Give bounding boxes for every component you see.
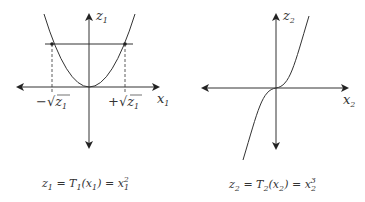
left-z-axis-label: z1 — [95, 8, 108, 25]
intersection-point-right — [123, 42, 127, 46]
right-z-axis-label: z2 — [282, 8, 295, 25]
pos-root-label: +√z1 — [108, 94, 139, 111]
intersection-point-left — [50, 42, 54, 46]
left-caption: z1 = T1(x1) = x21 — [42, 175, 129, 192]
neg-root-label: −√z1 — [36, 94, 67, 111]
right-caption: z2 = T2(x2) = x32 — [229, 176, 316, 193]
left-plot: z1 x1 −√z1 +√z1 — [18, 8, 169, 147]
diagram-canvas: z1 x1 −√z1 +√z1 z2 x2 — [0, 0, 365, 202]
right-x-axis-label: x2 — [343, 92, 355, 109]
right-plot: z2 x2 — [203, 8, 355, 160]
left-x-axis-label: x1 — [157, 91, 169, 108]
